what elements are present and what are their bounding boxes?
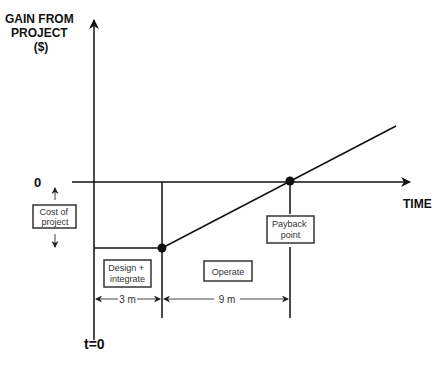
x-axis-label: TIME xyxy=(403,197,432,211)
operate-label: Operate xyxy=(212,267,245,277)
design-integrate-label: Design + integrate xyxy=(108,263,146,284)
cost-of-project-label: Cost of project xyxy=(39,207,70,227)
payback-diagram: GAIN FROM PROJECT ($) 0 TIME Cost of pro… xyxy=(0,0,441,367)
zero-label: 0 xyxy=(34,175,41,190)
y-axis-label: GAIN FROM PROJECT ($) xyxy=(5,12,77,54)
operate-duration-label: 9 m xyxy=(219,294,236,305)
operate-start-point xyxy=(158,244,167,253)
time-origin-label: t=0 xyxy=(84,336,105,352)
design-duration-label: 3 m xyxy=(119,294,136,305)
